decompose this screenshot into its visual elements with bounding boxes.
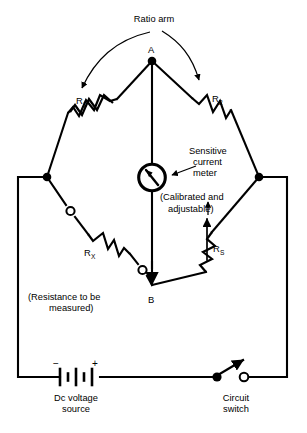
- rx-binding-post-upper: [66, 207, 74, 215]
- node-b-label: B: [148, 294, 154, 305]
- resistance-annotation-line1: (Resistance to be: [28, 292, 100, 303]
- source-annotation-line2: source: [31, 404, 121, 415]
- r2-label: R: [212, 93, 219, 104]
- battery-plus-sign: +: [92, 358, 98, 369]
- dc-voltage-source-icon: − +: [53, 358, 98, 385]
- arm-rx: R X: [47, 177, 152, 285]
- switch-annotation-line2: switch: [196, 404, 276, 415]
- resistance-annotation-line2: measured): [49, 303, 93, 314]
- wheatstone-bridge-diagram: R 1 R 2 R X R: [0, 0, 307, 433]
- node-left-dot: [43, 173, 52, 182]
- switch-blade: [218, 360, 243, 375]
- source-annotation-line1: Dc voltage: [31, 393, 121, 404]
- circuit-switch-icon[interactable]: [212, 360, 248, 382]
- meter-annotation-line1: Sensitive: [189, 146, 227, 157]
- switch-terminal: [240, 373, 249, 382]
- circuit-svg: R 1 R 2 R X R: [0, 0, 307, 433]
- meter-annotation-line3: meter: [193, 168, 217, 179]
- node-a-dot: [148, 57, 157, 66]
- calibrated-annotation-line2: adjustable): [168, 204, 213, 215]
- meter-annotation-line2: current: [193, 157, 222, 168]
- rs-label: R: [213, 243, 220, 254]
- rx-subscript: X: [91, 253, 96, 260]
- rx-label: R: [84, 247, 91, 258]
- r1-subscript: 1: [83, 101, 87, 108]
- node-a-label: A: [148, 44, 155, 55]
- calibrated-annotation-line1: (Calibrated and: [160, 192, 224, 203]
- ratio-arm-label: Ratio arm: [109, 14, 199, 25]
- battery-minus-sign: −: [53, 358, 59, 369]
- arm-r1: R 1: [47, 61, 152, 177]
- ratio-arm-leader-left: [82, 32, 150, 88]
- node-right-dot: [255, 173, 264, 182]
- rs-subscript: S: [220, 249, 225, 256]
- r2-subscript: 2: [219, 99, 223, 106]
- galvanometer-branch: [139, 61, 166, 284]
- r1-label: R: [76, 95, 83, 106]
- ratio-arm-leader-right: [162, 31, 199, 80]
- rx-binding-post-lower: [138, 266, 146, 274]
- switch-annotation-line1: Circuit: [196, 393, 276, 404]
